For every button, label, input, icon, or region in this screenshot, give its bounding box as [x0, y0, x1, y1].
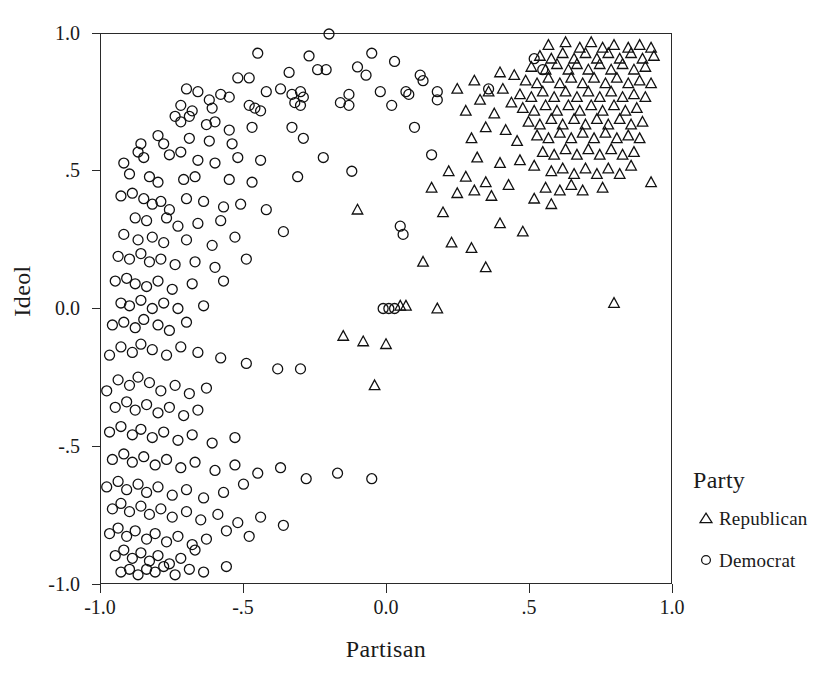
data-point-triangle [472, 152, 483, 162]
legend-item-democrat[interactable]: Democrat [693, 542, 825, 578]
data-point-circle [301, 474, 311, 484]
data-point-triangle [566, 133, 577, 143]
data-point-triangle [560, 37, 571, 47]
data-point-triangle [369, 380, 380, 390]
data-point-circle [133, 235, 143, 245]
data-point-circle [276, 463, 286, 473]
data-point-circle [176, 100, 186, 110]
data-point-circle [122, 397, 132, 407]
data-point-triangle [557, 163, 568, 173]
data-point-circle [136, 501, 146, 511]
data-point-circle [236, 199, 246, 209]
data-point-circle [193, 347, 203, 357]
data-point-triangle [495, 67, 506, 77]
data-point-circle [159, 139, 169, 149]
legend-title: Party [693, 466, 825, 494]
data-point-circle [298, 133, 308, 143]
data-point-triangle [597, 182, 608, 192]
data-point-circle [278, 520, 288, 530]
data-point-circle [367, 48, 377, 58]
data-point-triangle [583, 144, 594, 154]
data-point-triangle [532, 130, 543, 140]
data-point-circle [125, 254, 135, 264]
data-point-triangle [575, 105, 586, 115]
data-point-triangle [529, 193, 540, 203]
data-point-circle [119, 317, 129, 327]
data-point-circle [221, 562, 231, 572]
x-tick-label: .5 [494, 596, 564, 618]
data-point-circle [110, 276, 120, 286]
data-point-circle [213, 509, 223, 519]
data-point-circle [130, 279, 140, 289]
data-point-circle [219, 487, 229, 497]
data-point-circle [375, 87, 385, 97]
data-point-circle [136, 339, 146, 349]
data-point-triangle [594, 92, 605, 102]
data-point-circle [116, 422, 126, 432]
data-point-circle [102, 386, 112, 396]
data-point-circle [387, 100, 397, 110]
data-point-triangle [546, 199, 557, 209]
data-point-circle [261, 205, 271, 215]
data-point-circle [153, 276, 163, 286]
data-point-circle [230, 232, 240, 242]
data-point-circle [318, 153, 328, 163]
data-point-triangle [518, 103, 529, 113]
data-point-circle [273, 364, 283, 374]
data-point-triangle [614, 169, 625, 179]
data-point-triangle [555, 185, 566, 195]
data-point-circle [159, 427, 169, 437]
data-point-circle [136, 295, 146, 305]
data-point-circle [190, 257, 200, 267]
data-point-circle [133, 479, 143, 489]
data-point-circle [216, 353, 226, 363]
data-point-triangle [466, 133, 477, 143]
data-point-circle [107, 320, 117, 330]
legend-item-republican[interactable]: Republican [693, 500, 825, 536]
scatter-plot-figure: Ideol 1.0 .5 0.0 -.5 -1.0 -1.0 -.5 0.0 .… [0, 0, 825, 673]
data-point-circle [221, 526, 231, 536]
data-point-triangle [418, 256, 429, 266]
data-point-triangle [549, 149, 560, 159]
scatter-points-layer [101, 34, 671, 583]
data-point-circle [113, 375, 123, 385]
data-point-circle [119, 545, 129, 555]
data-point-circle [156, 504, 166, 514]
data-point-triangle [560, 144, 571, 154]
data-point-circle [193, 405, 203, 415]
data-point-triangle [529, 160, 540, 170]
data-point-circle [324, 29, 334, 39]
data-point-triangle [623, 78, 634, 88]
data-point-circle [170, 260, 180, 270]
data-point-circle [293, 172, 303, 182]
data-point-circle [199, 301, 209, 311]
data-point-triangle [546, 166, 557, 176]
data-point-triangle [432, 303, 443, 313]
x-tick-mark [100, 584, 101, 593]
data-point-circle [179, 411, 189, 421]
data-point-circle [156, 196, 166, 206]
data-point-triangle [557, 119, 568, 129]
data-point-circle [113, 523, 123, 533]
data-point-circle [156, 386, 166, 396]
data-point-circle [102, 482, 112, 492]
data-point-triangle [634, 40, 645, 50]
data-point-circle [224, 125, 234, 135]
data-point-circle [344, 89, 354, 99]
data-point-circle [133, 372, 143, 382]
data-point-circle [378, 304, 388, 314]
data-point-circle [167, 512, 177, 522]
data-point-triangle [617, 149, 628, 159]
data-point-circle [139, 314, 149, 324]
data-point-circle [147, 232, 157, 242]
data-point-triangle [338, 331, 349, 341]
data-point-circle [107, 454, 117, 464]
data-point-triangle [637, 116, 648, 126]
data-point-triangle [352, 204, 363, 214]
data-point-triangle [443, 166, 454, 176]
data-point-circle [333, 468, 343, 478]
x-tick-label: 0.0 [351, 596, 421, 618]
data-point-triangle [592, 169, 603, 179]
data-point-circle [244, 531, 254, 541]
data-point-circle [125, 169, 135, 179]
